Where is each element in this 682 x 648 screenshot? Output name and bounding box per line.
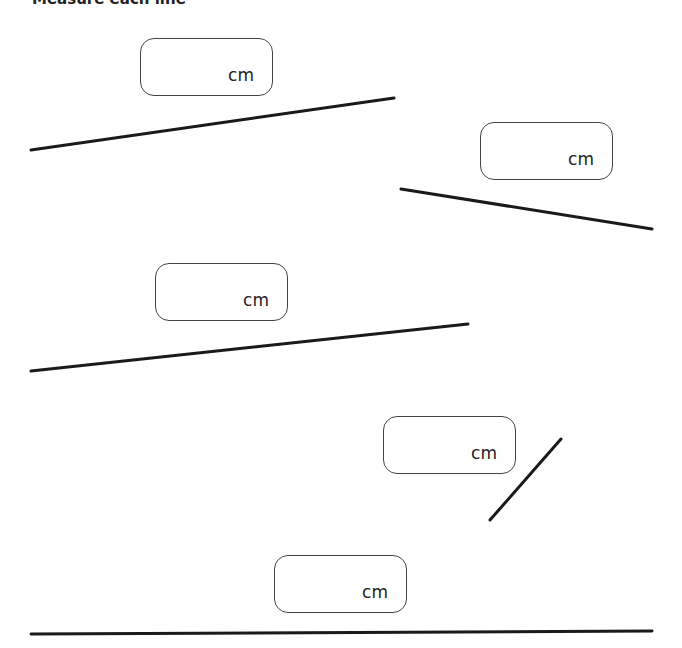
measure-line-1 (31, 98, 394, 150)
measure-line-2 (401, 189, 652, 229)
measure-line-4 (490, 439, 561, 520)
lines-canvas (0, 0, 682, 648)
measure-line-5 (31, 631, 652, 634)
measure-line-3 (31, 324, 468, 371)
